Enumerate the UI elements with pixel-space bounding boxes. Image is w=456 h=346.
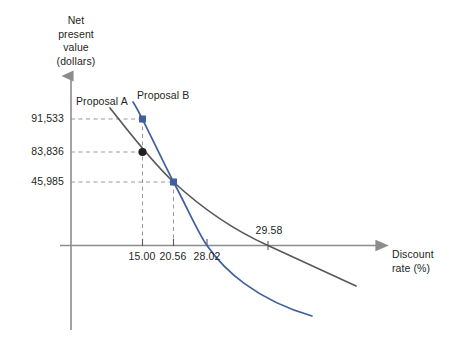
curve-proposal-b (133, 102, 312, 316)
x-tick-label-2958: 29.58 (248, 224, 290, 237)
series-label-proposal-b: Proposal B (137, 89, 197, 102)
y-axis-title-line-4: (dollars) (57, 55, 96, 67)
axes-group (60, 76, 385, 330)
y-axis-title-line-1: Net (68, 14, 85, 26)
y-axis-title: Netpresentvalue(dollars) (38, 14, 114, 68)
y-tick-label-83836: 83,836 (6, 145, 64, 158)
series-label-proposal-a: Proposal A (76, 95, 136, 108)
x-axis-title-line-1: Discount (392, 248, 434, 260)
y-axis-title-line-3: value (63, 41, 89, 53)
guide-lines-group (71, 119, 176, 243)
marker-proposal-b-at-15 (139, 116, 146, 123)
y-tick-label-45985: 45,985 (6, 175, 64, 188)
x-tick-marks (143, 239, 269, 250)
x-axis-title-line-2: rate (%) (392, 262, 430, 274)
npv-profile-chart: Netpresentvalue(dollars) Discountrate (%… (0, 0, 456, 346)
x-axis-title: Discountrate (%) (392, 248, 454, 275)
x-tick-label-2802: 28.02 (186, 250, 228, 263)
y-tick-label-91533: 91,533 (6, 112, 64, 125)
marker-proposal-a-at-15 (138, 148, 146, 156)
y-axis-title-line-2: present (58, 28, 94, 40)
marker-crossover-point (170, 179, 177, 186)
